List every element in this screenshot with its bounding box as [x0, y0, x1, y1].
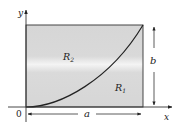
diagram-figure: y x 0 a b R2 R1: [0, 0, 180, 130]
y-axis-label: y: [17, 8, 24, 18]
width-label: a: [84, 108, 90, 119]
height-label: b: [150, 55, 156, 66]
x-axis-label: x: [164, 112, 169, 122]
origin-label: 0: [16, 109, 22, 119]
rectangle-region: [26, 25, 143, 107]
